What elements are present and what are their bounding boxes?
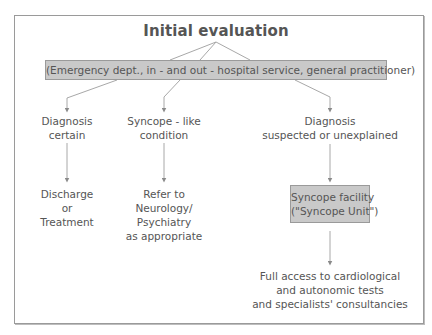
decision-line: condition <box>114 128 214 142</box>
outcome-line: Neurology/ <box>114 201 214 215</box>
decision-line: certain <box>27 128 107 142</box>
outcome-line: Refer to <box>114 187 214 201</box>
decision-line: Syncope - like <box>114 114 214 128</box>
outcome-line: or <box>22 201 112 215</box>
decision-diagnosis-certain: Diagnosis certain <box>27 114 107 142</box>
outcome-line: and autonomic tests <box>245 283 415 297</box>
outcome-full-access-tests: Full access to cardiological and autonom… <box>245 269 415 311</box>
diagram-title: Initial evaluation <box>0 22 432 40</box>
decision-line: Diagnosis <box>260 114 400 128</box>
outcome-line: Full access to cardiological <box>245 269 415 283</box>
outcome-line: Discharge <box>22 187 112 201</box>
outcome-line: as appropriate <box>114 229 214 243</box>
outcome-line: Psychiatry <box>114 215 214 229</box>
facility-line: ("Syncope Unit") <box>291 204 369 218</box>
outcome-line: Treatment <box>22 215 112 229</box>
decision-diagnosis-suspected-or-unexplained: Diagnosis suspected or unexplained <box>260 114 400 142</box>
decision-line: suspected or unexplained <box>260 128 400 142</box>
decision-syncope-like-condition: Syncope - like condition <box>114 114 214 142</box>
outcome-refer-neurology-psychiatry: Refer to Neurology/ Psychiatry as approp… <box>114 187 214 243</box>
outcome-discharge-or-treatment: Discharge or Treatment <box>22 187 112 229</box>
decision-line: Diagnosis <box>27 114 107 128</box>
outcome-line: and specialists' consultancies <box>245 297 415 311</box>
facility-line: Syncope facility <box>291 190 369 204</box>
syncope-unit-box: Syncope facility ("Syncope Unit") <box>290 185 370 223</box>
evaluation-setting-box: (Emergency dept., in - and out - hospita… <box>45 60 387 80</box>
